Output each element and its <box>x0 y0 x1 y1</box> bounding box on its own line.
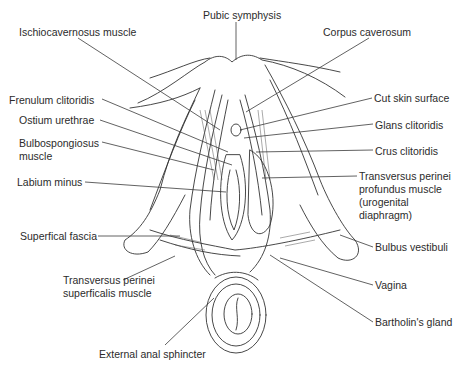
label-frenulum-clitoridis: Frenulum clitoridis <box>9 94 94 107</box>
label-transversus-perinei-superficialis: Transversus perinei superficalis muscle <box>63 274 158 300</box>
label-cut-skin-surface: Cut skin surface <box>374 92 449 105</box>
label-crus-clitoridis: Crus clitoridis <box>375 145 438 158</box>
label-ostium-urethrae: Ostium urethrae <box>19 114 94 127</box>
label-corpus-cavernosum: Corpus caverosum <box>323 26 411 39</box>
label-vagina: Vagina <box>375 279 407 292</box>
label-glans-clitoridis: Glans clitoridis <box>375 119 443 132</box>
label-bartholins-gland: Bartholin's gland <box>375 316 452 329</box>
label-bulbus-vestibuli: Bulbus vestibuli <box>375 241 448 254</box>
label-labium-minus: Labium minus <box>17 176 82 189</box>
label-external-anal-sphincter: External anal sphincter <box>99 348 206 361</box>
anatomy-figure: Pubic symphysis Ischiocavernosus muscle … <box>0 0 461 368</box>
label-ischiocavernosus-muscle: Ischiocavernosus muscle <box>19 26 136 39</box>
label-superficial-fascia: Superfical fascia <box>20 230 97 243</box>
label-bulbospongiosus-muscle: Bulbospongiosus muscle <box>19 137 104 163</box>
label-transversus-perinei-profundus: Transversus perinei profundus muscle (ur… <box>359 170 459 222</box>
label-pubic-symphysis: Pubic symphysis <box>203 9 281 22</box>
